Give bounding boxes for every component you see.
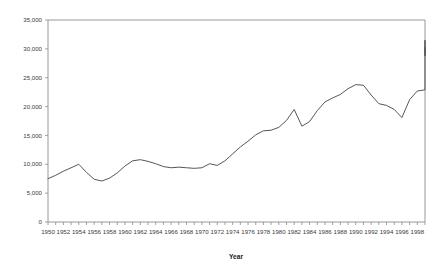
x-axis-title: Year [229, 253, 243, 260]
axis-frame [48, 20, 425, 222]
y-axis-tick-group: 05,00010,00015,00020,00025,00030,00035,0… [23, 16, 48, 225]
x-axis-tick-label: 1960 [118, 228, 132, 235]
data-series-line [48, 40, 425, 181]
x-axis-tick-label: 1982 [287, 228, 301, 235]
y-axis-tick-label: 20,000 [23, 103, 42, 110]
x-axis-tick-group: 1950195219541956195819601962196419661968… [41, 222, 425, 235]
y-axis-tick-label: 0 [39, 218, 43, 225]
line-chart-figure: 05,00010,00015,00020,00025,00030,00035,0… [0, 0, 447, 266]
y-axis-tick-label: 10,000 [23, 160, 42, 167]
x-axis-tick-label: 1996 [395, 228, 409, 235]
x-axis-tick-label: 1972 [210, 228, 224, 235]
x-axis-tick-label: 1988 [334, 228, 348, 235]
chart-plot-area: 05,00010,00015,00020,00025,00030,00035,0… [0, 0, 447, 266]
x-axis-tick-label: 1950 [41, 228, 55, 235]
y-axis-tick-label: 35,000 [23, 16, 42, 23]
x-axis-tick-label: 1986 [318, 228, 332, 235]
x-axis-tick-label: 1970 [195, 228, 209, 235]
x-axis-tick-label: 1978 [257, 228, 271, 235]
y-axis-tick-label: 25,000 [23, 74, 42, 81]
x-axis-tick-label: 1998 [411, 228, 425, 235]
x-axis-tick-label: 1966 [164, 228, 178, 235]
x-axis-tick-label: 1968 [180, 228, 194, 235]
x-axis-tick-label: 1952 [57, 228, 71, 235]
x-axis-tick-label: 1964 [149, 228, 163, 235]
x-axis-tick-label: 1962 [134, 228, 148, 235]
x-axis-tick-label: 1992 [364, 228, 378, 235]
x-axis-tick-label: 1974 [226, 228, 240, 235]
x-axis-tick-label: 1984 [303, 228, 317, 235]
x-axis-tick-label: 1990 [349, 228, 363, 235]
x-axis-tick-label: 1980 [272, 228, 286, 235]
x-axis-tick-label: 1994 [380, 228, 394, 235]
x-axis-tick-label: 1956 [87, 228, 101, 235]
x-axis-tick-label: 1954 [72, 228, 86, 235]
x-axis-tick-label: 1958 [103, 228, 117, 235]
y-axis-tick-label: 30,000 [23, 45, 42, 52]
y-axis-tick-label: 15,000 [23, 132, 42, 139]
x-axis-tick-label: 1976 [241, 228, 255, 235]
y-axis-tick-label: 5,000 [27, 189, 43, 196]
